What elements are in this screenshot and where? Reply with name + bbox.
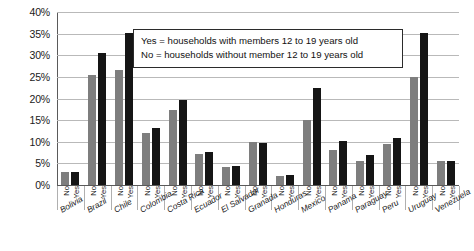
legend-line-no: No = households without member 12 to 19 … [141,48,395,62]
bar-brazil-yes [98,53,106,185]
bar-el-salvador-yes [232,166,240,185]
bar-panama-yes [339,141,347,185]
y-axis-tick: 30% [30,49,50,61]
y-axis-tick: 0% [35,179,50,191]
bar-peru-yes [393,138,401,185]
tick-label-no: No [116,186,125,196]
bar-uruguay-no [410,77,418,185]
bar-costa-rica-yes [179,100,187,185]
y-axis-tick: 10% [30,136,50,148]
bar-bolivia-yes [71,172,79,185]
bar-paraguay-yes [366,155,374,185]
bar-brazil-no [88,75,96,185]
tick-label-no: No [357,186,366,196]
bar-chile-yes [125,33,133,185]
bar-panama-no [329,150,337,185]
bar-granada-yes [259,143,267,185]
tick-label-no: No [411,186,420,196]
bar-granada-no [249,142,257,185]
bar-ecuador-yes [205,152,213,185]
tick-label-no: No [223,186,232,196]
y-axis-tick: 35% [30,28,50,40]
bar-bolivia-no [61,172,69,185]
bar-honduras-no [276,176,284,186]
bar-uruguay-yes [420,33,428,185]
bar-mexico-yes [313,88,321,185]
bar-chart: 40%35%30%25%20%15%10%5%0% Yes = househol… [0,0,474,251]
legend-line-yes: Yes = households with members 12 to 19 y… [141,34,395,48]
bar-colombia-no [142,133,150,185]
y-axis-tick: 40% [30,6,50,18]
category-labels: BoliviaBrazilChileColombiaCosta RicaEcua… [0,206,474,251]
legend-box: Yes = households with members 12 to 19 y… [133,29,403,68]
y-axis-tick: 25% [30,71,50,83]
bar-ecuador-no [195,154,203,185]
y-axis-tick: 5% [35,157,50,169]
bar-mexico-no [303,120,311,185]
tick-label-no: No [62,186,71,196]
tick-label-no: No [330,186,339,196]
bar-el-salvador-no [222,167,230,185]
bar-peru-no [383,144,391,185]
bar-chile-no [115,70,123,185]
y-axis-tick: 20% [30,93,50,105]
bar-venezuela-yes [447,161,455,185]
bar-costa-rica-no [169,110,177,185]
bar-paraguay-no [356,161,364,185]
bar-venezuela-no [437,161,445,185]
bar-colombia-yes [152,128,160,185]
tick-label-no: No [277,186,286,196]
tick-label-no: No [143,186,152,196]
tick-label-no: No [89,186,98,196]
bar-honduras-yes [286,175,294,185]
tick-label-no: No [438,186,447,196]
y-axis-tick: 15% [30,114,50,126]
